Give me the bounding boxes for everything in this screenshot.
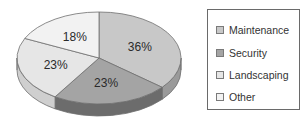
legend-label: Landscaping <box>229 69 289 81</box>
legend: Maintenance Security Landscaping Other <box>207 9 300 110</box>
legend-item-landscaping: Landscaping <box>216 68 289 82</box>
legend-item-other: Other <box>216 90 255 104</box>
slice-label-maintenance: 36% <box>128 40 152 54</box>
legend-swatch <box>216 26 224 34</box>
pie-chart: 36%23%23%18% <box>0 0 200 125</box>
legend-label: Maintenance <box>229 24 289 36</box>
legend-item-security: Security <box>216 46 267 60</box>
legend-item-maintenance: Maintenance <box>216 23 289 37</box>
pie-slices <box>17 12 181 104</box>
slice-label-security: 23% <box>94 76 118 90</box>
slice-label-other: 18% <box>63 30 87 44</box>
legend-swatch <box>216 93 224 101</box>
legend-label: Other <box>229 91 255 103</box>
legend-swatch <box>216 49 224 57</box>
legend-swatch <box>216 71 224 79</box>
legend-label: Security <box>229 47 267 59</box>
slice-label-landscaping: 23% <box>44 58 68 72</box>
